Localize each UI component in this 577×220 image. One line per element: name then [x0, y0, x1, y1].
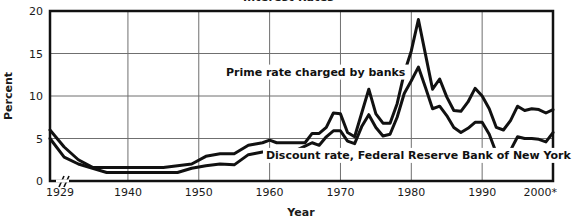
y-tick-label: 0: [36, 175, 43, 188]
y-axis-title: Percent: [2, 72, 15, 120]
y-tick-label: 10: [29, 90, 43, 103]
series-label-0: Prime rate charged by banks: [226, 66, 406, 79]
x-tick-label: 1980: [397, 186, 425, 199]
x-tick-label: 1960: [256, 186, 284, 199]
x-tick-label: 2000*: [524, 186, 558, 199]
series-label-1: Discount rate, Federal Reserve Bank of N…: [266, 149, 572, 162]
x-tick-label: 1950: [185, 186, 213, 199]
x-axis-title: Year: [286, 206, 315, 219]
x-tick-label: 1970: [326, 186, 354, 199]
chart-figure: Interest Rates 1929194019501960197019801…: [0, 0, 577, 220]
x-tick-label: 1990: [468, 186, 496, 199]
interest-rates-line-chart: 19291940195019601970198019902000* 051015…: [0, 0, 577, 220]
series-line-0: [50, 20, 553, 168]
x-tick-label: 1929: [46, 186, 74, 199]
y-tick-label: 15: [29, 48, 43, 61]
y-tick-label: 5: [36, 133, 43, 146]
y-tick-label: 20: [29, 5, 43, 18]
x-tick-label: 1940: [114, 186, 142, 199]
x-axis-tick-labels: 19291940195019601970198019902000*: [46, 186, 557, 199]
y-axis-tick-labels: 05101520: [29, 5, 43, 188]
